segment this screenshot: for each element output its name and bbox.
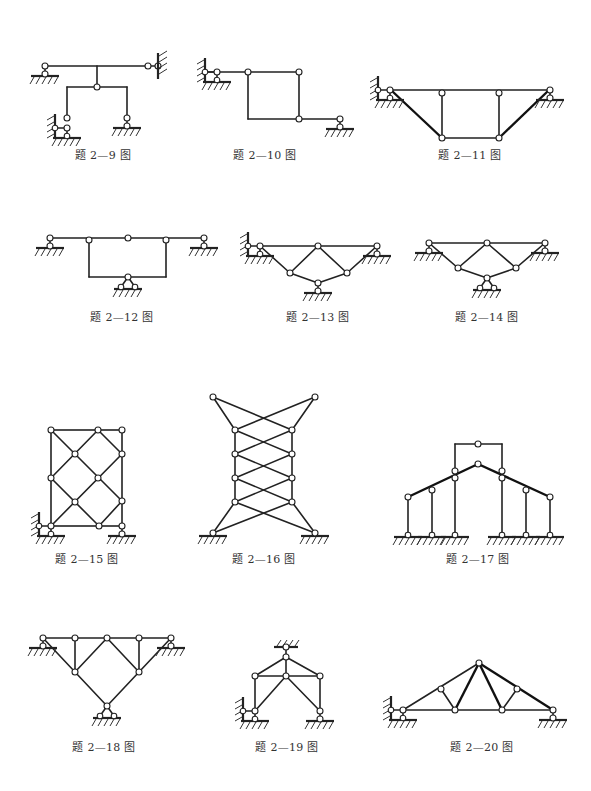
figure-2-15 — [31, 427, 136, 544]
caption-2-11: 题 2—11 图 — [438, 146, 501, 162]
figure-2-18 — [28, 635, 185, 726]
caption-2-12: 题 2—12 图 — [90, 308, 153, 324]
figure-2-20 — [383, 660, 567, 728]
caption-2-20: 题 2—20 图 — [450, 738, 513, 754]
caption-2-10: 题 2—10 图 — [233, 146, 296, 162]
caption-2-16: 题 2—16 图 — [232, 550, 295, 566]
figure-2-11 — [370, 76, 564, 141]
figure-2-17 — [393, 441, 564, 545]
figure-2-19 — [235, 640, 334, 729]
figure-2-10 — [197, 58, 354, 137]
caption-2-17: 题 2—17 图 — [446, 550, 509, 566]
figure-2-14 — [414, 240, 559, 298]
caption-2-15: 题 2—15 图 — [55, 550, 118, 566]
caption-2-18: 题 2—18 图 — [72, 738, 135, 754]
figure-2-16 — [198, 394, 329, 544]
figure-2-13 — [240, 232, 391, 301]
figure-2-9 — [30, 51, 167, 146]
caption-2-13: 题 2—13 图 — [286, 308, 349, 324]
caption-2-19: 题 2—19 图 — [255, 738, 318, 754]
caption-2-9: 题 2—9 图 — [75, 146, 131, 162]
figure-2-12 — [35, 235, 218, 297]
caption-2-14: 题 2—14 图 — [455, 308, 518, 324]
figures-canvas — [0, 0, 591, 791]
